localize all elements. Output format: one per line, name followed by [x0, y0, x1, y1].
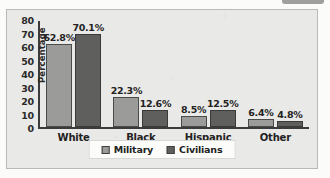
bar-civilians-white: 70.1%	[75, 34, 101, 127]
legend-item-military: Military	[102, 144, 153, 155]
bar-value-label: 12.6%	[140, 98, 171, 109]
bar-value-label: 12.5%	[207, 98, 238, 109]
legend-swatch-icon	[167, 146, 175, 154]
category-label-other: Other	[242, 132, 309, 143]
y-axis-tick-labels: 80 70 60 50 40 30 20 10 0	[10, 21, 34, 129]
legend-item-civilians: Civilians	[167, 144, 222, 155]
bar-value-label: 70.1%	[72, 22, 103, 33]
scanned-chart-page: Percentage 80 70 60 50 40 30 20 10 0 62.…	[0, 0, 330, 178]
plot-area: Percentage 80 70 60 50 40 30 20 10 0 62.…	[38, 21, 309, 129]
bar-military-hispanic: 8.5%	[181, 116, 207, 127]
bar-civilians-black: 12.6%	[142, 110, 168, 127]
y-tick: 20	[21, 97, 34, 107]
bar-value-label: 22.3%	[111, 85, 142, 96]
y-tick: 50	[21, 57, 34, 67]
bar-value-label: 4.8%	[277, 109, 302, 120]
bar-civilians-hispanic: 12.5%	[210, 110, 236, 127]
bar-value-label: 8.5%	[181, 104, 206, 115]
y-tick: 10	[21, 111, 34, 121]
x-axis-line	[38, 127, 309, 129]
bar-value-label: 6.4%	[248, 107, 273, 118]
bar-military-white: 62.8%	[46, 44, 72, 127]
y-tick: 40	[21, 70, 34, 80]
bar-group: 62.8%70.1%	[40, 21, 107, 127]
bar-military-black: 22.3%	[113, 97, 139, 127]
legend-label: Military	[114, 144, 153, 155]
y-tick: 30	[21, 84, 34, 94]
bar-military-other: 6.4%	[248, 119, 274, 127]
bar-value-label: 62.8%	[43, 32, 74, 43]
bar-group: 8.5%12.5%	[175, 21, 242, 127]
bar-group: 6.4%4.8%	[242, 21, 309, 127]
bar-groups: 62.8%70.1%22.3%12.6%8.5%12.5%6.4%4.8%	[40, 21, 309, 127]
y-tick: 80	[21, 16, 34, 26]
bar-chart: Percentage 80 70 60 50 40 30 20 10 0 62.…	[6, 9, 318, 169]
y-tick: 70	[21, 30, 34, 40]
legend-swatch-icon	[102, 146, 110, 154]
legend-label: Civilians	[179, 144, 222, 155]
bar-civilians-other: 4.8%	[277, 121, 303, 127]
y-tick: 0	[28, 124, 34, 134]
chart-legend: Military Civilians	[89, 140, 236, 159]
bar-group: 22.3%12.6%	[107, 21, 174, 127]
scan-artifact	[282, 0, 324, 4]
y-tick: 60	[21, 43, 34, 53]
